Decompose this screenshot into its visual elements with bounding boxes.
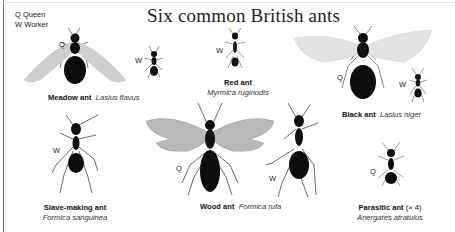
wood-ant-caption: Wood ant Formica rufa: [200, 202, 281, 212]
parasitic-queen-label: Q: [370, 167, 376, 176]
left-wing: [294, 36, 360, 62]
common-name: Red ant: [196, 78, 280, 88]
black-ant-worker-illustration: [406, 68, 430, 108]
top-border: [3, 2, 455, 3]
latin-name: Formica sanguinea: [30, 213, 120, 223]
wood-queen-label: Q: [176, 164, 182, 173]
latin-name: Lasius niger: [380, 110, 421, 119]
meadow-worker-label: W: [135, 56, 142, 65]
red-ant-caption: Red ant Myrmica ruginodis: [196, 78, 280, 98]
common-name: Slave-making ant: [30, 203, 120, 213]
meadow-ant-queen-illustration: [20, 28, 130, 93]
slave-making-worker-label: W: [53, 146, 60, 155]
page-title: Six common British ants: [147, 5, 340, 27]
wood-ant-queen-illustration: [142, 103, 277, 198]
meadow-ant-caption: Meadow ant Lasius flavus: [48, 93, 140, 103]
meadow-queen-label: Q: [59, 40, 65, 49]
left-wing: [146, 119, 206, 152]
wood-ant-worker-illustration: [262, 103, 322, 198]
red-ant-worker-illustration: [222, 28, 248, 76]
common-name: Wood ant: [200, 202, 234, 211]
left-border: [3, 0, 4, 232]
caste-legend: Q Queen W Worker: [15, 10, 48, 30]
common-name: Parasitic ant: [358, 203, 403, 212]
common-name: Black ant: [342, 110, 376, 119]
right-wing: [366, 30, 432, 62]
black-queen-label: Q: [337, 73, 343, 82]
black-ant-caption: Black ant Lasius niger: [342, 110, 421, 120]
latin-name: Formica rufa: [239, 202, 282, 211]
black-worker-label: W: [399, 80, 406, 89]
slave-making-ant-caption: Slave-making ant Formica sanguinea: [30, 203, 120, 223]
illustration-plate: Q Queen W Worker Six common British ants…: [0, 0, 455, 232]
parasitic-ant-caption: Parasitic ant (× 4) Anergates atratulus: [345, 203, 435, 223]
red-worker-label: W: [216, 46, 223, 55]
latin-name: Lasius flavus: [96, 93, 140, 102]
legend-item-queen: Q Queen: [15, 10, 48, 20]
latin-name: Myrmica ruginodis: [196, 88, 280, 98]
parasitic-ant-queen-illustration: [374, 142, 408, 192]
common-name: Meadow ant: [48, 93, 91, 102]
scale-note: (× 4): [406, 203, 422, 212]
slave-making-ant-worker-illustration: [50, 115, 102, 195]
right-wing: [78, 42, 126, 82]
meadow-ant-worker-illustration: [143, 46, 165, 86]
wood-worker-label: W: [269, 174, 276, 183]
latin-name: Anergates atratulus: [345, 213, 435, 223]
